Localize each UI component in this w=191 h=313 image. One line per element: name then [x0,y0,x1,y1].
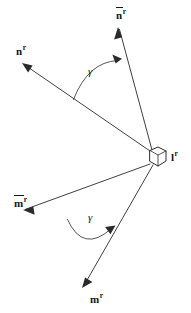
label-n-bar-r-base: n [116,10,122,21]
label-m-bar-r: mr [14,196,27,209]
label-l-r-base: l [171,152,174,163]
label-n-r-base: n [16,46,22,57]
label-m-r: mr [90,292,103,305]
label-m-r-base: m [90,294,99,305]
vector-diagram-canvas [0,0,191,313]
label-m-r-sup: r [100,291,103,300]
label-n-r: nr [16,44,26,57]
angle-label-gamma-lower: γ [88,212,92,223]
label-l-r: lr [171,150,178,163]
label-m-bar-r-sup: r [24,195,27,204]
label-n-bar-r: nr [116,8,126,21]
label-n-bar-r-sup: r [123,7,126,16]
angle-label-gamma-upper: γ [88,66,92,77]
label-l-r-sup: r [175,149,178,158]
label-m-bar-r-base: m [14,198,23,209]
label-n-r-sup: r [23,43,26,52]
